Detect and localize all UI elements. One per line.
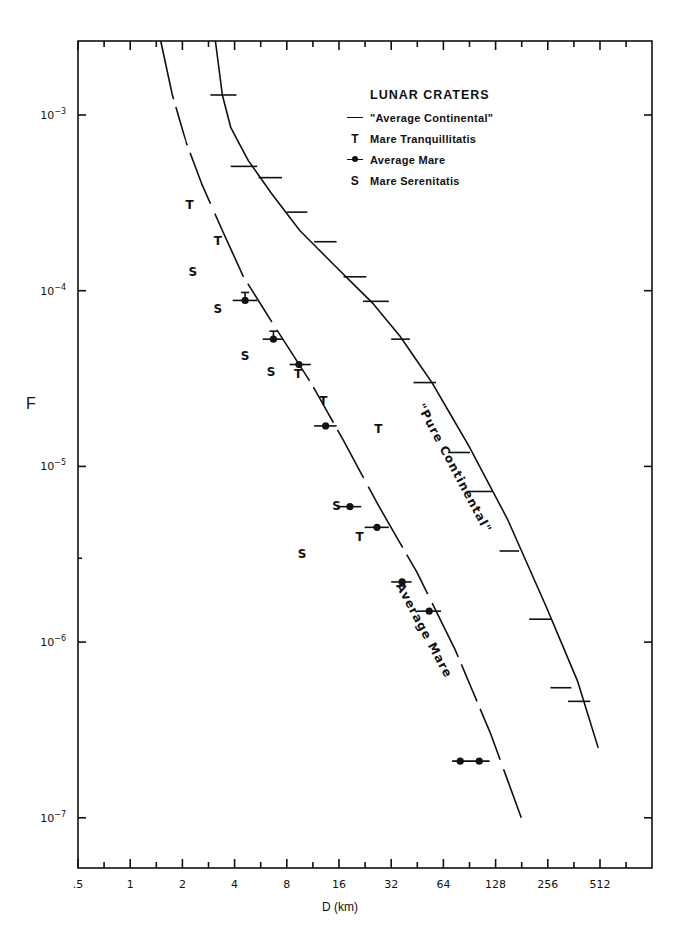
legend-item-average-continental: "Average Continental" xyxy=(340,107,493,128)
tranquillitatis-point: T xyxy=(374,422,383,436)
serenitatis-point: S xyxy=(241,349,250,363)
average-mare-point xyxy=(322,422,329,429)
average-mare-point xyxy=(373,524,380,531)
tranquillitatis-point: T xyxy=(294,367,303,381)
x-tick-label: 512 xyxy=(590,878,611,891)
y-tick-label: 10−5 xyxy=(40,458,66,473)
legend: LUNAR CRATERS "Average Continental" T Ma… xyxy=(340,88,493,191)
y-tick-label: 10−4 xyxy=(40,283,66,298)
x-tick-label: 4 xyxy=(231,878,238,891)
x-tick-label: .5 xyxy=(73,878,84,891)
x-tick-label: 256 xyxy=(537,878,558,891)
tranquillitatis-point: T xyxy=(355,530,364,544)
tranquillitatis-point: T xyxy=(319,394,328,408)
legend-title: LUNAR CRATERS xyxy=(370,88,493,102)
x-tick-label: 64 xyxy=(436,878,450,891)
x-axis-label: D (km) xyxy=(322,900,358,914)
x-tick-label: 128 xyxy=(485,878,506,891)
data-markers: TTTTTTSSSSSS xyxy=(185,95,590,765)
legend-item-mare-tranquillitatis: T Mare Tranquillitatis xyxy=(340,128,493,149)
average-mare-point xyxy=(426,608,433,615)
x-tick-label: 2 xyxy=(179,878,186,891)
tranquillitatis-point: T xyxy=(214,234,223,248)
y-tick-label: 10−3 xyxy=(40,107,66,122)
legend-label: Average Mare xyxy=(370,154,445,166)
s-marker-icon: S xyxy=(340,174,370,188)
serenitatis-point: S xyxy=(189,265,198,279)
x-tick-label: 8 xyxy=(283,878,290,891)
legend-label: "Average Continental" xyxy=(370,112,493,124)
line-icon xyxy=(340,117,370,118)
y-axis-label: F xyxy=(26,395,36,413)
serenitatis-point: S xyxy=(298,547,307,561)
x-tick-label: 1 xyxy=(127,878,134,891)
y-tick-label: 10−6 xyxy=(40,634,66,649)
average-mare-point xyxy=(346,503,353,510)
x-tick-label: 16 xyxy=(332,878,346,891)
y-axis-ticks: 10−310−410−510−610−7 xyxy=(40,107,652,825)
x-tick-label: 32 xyxy=(384,878,398,891)
average-mare-point xyxy=(476,758,483,765)
legend-label: Mare Serenitatis xyxy=(370,175,460,187)
legend-label: Mare Tranquillitatis xyxy=(370,133,476,145)
dot-marker-icon xyxy=(340,159,370,160)
curve-annotations: "Pure Continental"Average Mare xyxy=(393,401,494,680)
y-tick-label: 10−7 xyxy=(40,810,66,825)
legend-item-average-mare: Average Mare xyxy=(340,149,493,170)
serenitatis-point: S xyxy=(332,499,341,513)
serenitatis-point: S xyxy=(267,365,276,379)
tranquillitatis-point: T xyxy=(185,198,194,212)
legend-item-mare-serenitatis: S Mare Serenitatis xyxy=(340,170,493,191)
t-marker-icon: T xyxy=(340,132,370,146)
serenitatis-point: S xyxy=(213,302,222,316)
